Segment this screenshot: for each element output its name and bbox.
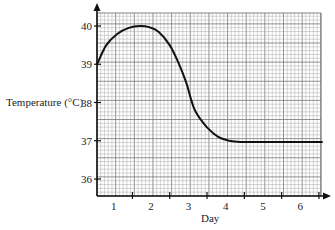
x-tick-label: 5 bbox=[260, 200, 266, 212]
x-tick-label: 2 bbox=[148, 200, 154, 212]
temperature-chart: 3637383940 123456 Temperature (°C) Day bbox=[0, 0, 335, 230]
x-tick-label: 4 bbox=[223, 200, 229, 212]
graph-paper-grid bbox=[97, 13, 321, 196]
y-axis-arrow-icon bbox=[94, 3, 101, 11]
x-tick-label: 3 bbox=[186, 200, 192, 212]
y-ticks: 3637383940 bbox=[81, 20, 101, 185]
y-tick-label: 37 bbox=[81, 135, 93, 147]
x-axis-title: Day bbox=[201, 212, 220, 224]
x-tick-label: 6 bbox=[298, 200, 304, 212]
y-tick-label: 40 bbox=[81, 20, 93, 32]
y-tick-label: 39 bbox=[81, 58, 93, 70]
x-tick-label: 1 bbox=[111, 200, 117, 212]
y-tick-label: 36 bbox=[81, 173, 93, 185]
y-axis-title: Temperature (°C) bbox=[6, 96, 84, 109]
x-axis-arrow-icon bbox=[323, 193, 331, 200]
axes bbox=[94, 3, 332, 200]
x-ticks: 123456 bbox=[111, 192, 319, 212]
